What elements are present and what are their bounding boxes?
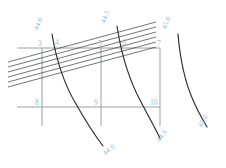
grid-number-upper-3: 3 [38,39,42,48]
grid-number-upper-6: 6 [122,38,126,47]
hatch-line [8,47,156,87]
grid-number-upper-5: 5 [98,39,102,48]
grid-lines [17,48,160,126]
hatch-line [8,32,156,72]
grid-number-lower-8: 8 [35,98,39,107]
grid-number-lower-10: 10 [150,98,158,107]
hatch-line [8,27,156,67]
hatch-band [8,22,156,87]
grid-number-lower-9: 9 [94,98,98,107]
grid-number-upper-7: 7 [157,39,161,48]
hatch-line [8,37,156,77]
contour-curve-44-0 [52,34,103,146]
hatch-line [8,22,156,62]
grid-number-upper-4: 4 [55,38,59,47]
contour-figure: 44.0 44.5 45.0 44.0 44.5 45.0 3 4 5 6 7 … [0,0,226,168]
